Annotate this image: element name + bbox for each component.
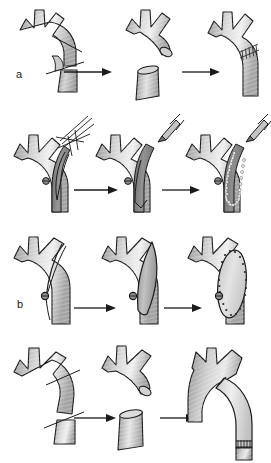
- arrow-icon: [64, 68, 112, 76]
- panel-a3: [200, 0, 271, 112]
- excised-aortic-segment: [136, 64, 159, 100]
- surgical-instrument-icon: [246, 114, 271, 142]
- row-a: a: [0, 0, 271, 112]
- surgical-clip: [125, 178, 132, 185]
- row-c: c: [0, 222, 271, 340]
- surgical-clip: [129, 292, 136, 299]
- panel-b3: [184, 112, 271, 222]
- resected-aortic-tube: [118, 408, 143, 450]
- arch-remnant: [126, 10, 174, 59]
- arrow-a-1: [58, 0, 120, 112]
- tube-graft-bypass: [216, 378, 252, 448]
- row-b: b: [0, 112, 271, 222]
- row-label-a: a: [16, 68, 22, 80]
- surgical-clip: [43, 178, 50, 185]
- aortic-arch-with-narrowed-segment: [14, 348, 74, 414]
- aortic-arch-with-descending: [14, 237, 70, 324]
- row-d: d: [0, 340, 271, 463]
- arch-remnant: [102, 346, 153, 398]
- figure-panel-grid: a: [0, 0, 271, 463]
- surgical-clip: [41, 292, 48, 299]
- patch-graft-dark: [134, 144, 154, 212]
- distal-aorta-stump: [236, 448, 252, 460]
- distal-anastomosis-suture-line: [236, 440, 252, 448]
- surgical-clip: [215, 292, 222, 299]
- panel-c3: [186, 222, 271, 340]
- surgical-clip: [215, 178, 222, 185]
- panel-d3: [180, 340, 271, 463]
